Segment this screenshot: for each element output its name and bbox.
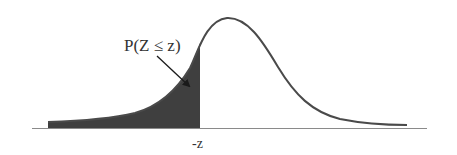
annotation-arrow-icon xyxy=(157,56,189,86)
axis-label-neg-z: -z xyxy=(192,136,203,151)
normal-distribution-figure: P(Z ≤ z) -z xyxy=(0,0,457,155)
probability-label: P(Z ≤ z) xyxy=(124,36,181,55)
normal-density-curve xyxy=(48,18,407,125)
